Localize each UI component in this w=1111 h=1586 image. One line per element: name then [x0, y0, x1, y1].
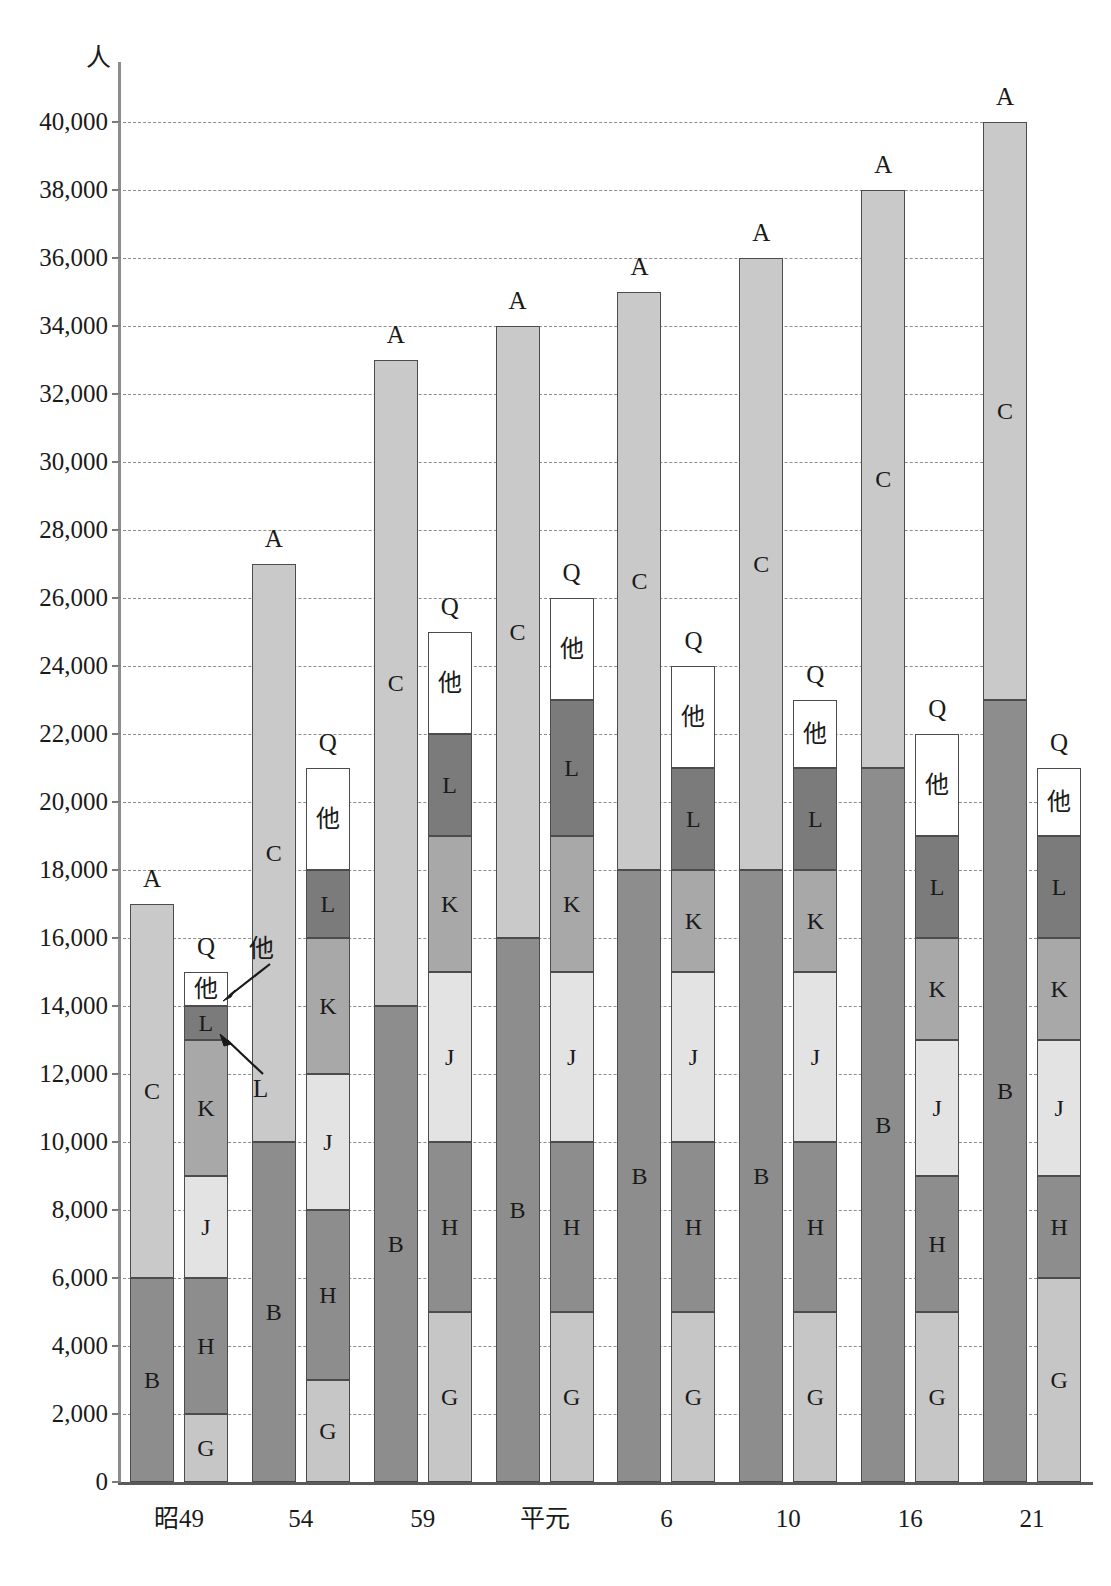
- segment-label: C: [388, 671, 404, 695]
- segment-label: G: [563, 1385, 580, 1409]
- segment-c: C: [739, 258, 783, 870]
- segment-label: G: [1050, 1368, 1067, 1392]
- segment-label: C: [266, 841, 282, 865]
- y-axis-tick-label: 38,000: [0, 177, 108, 202]
- segment-label: 他: [681, 705, 705, 729]
- bar-top-label-q: Q: [659, 628, 727, 653]
- segment-g: G: [550, 1312, 594, 1482]
- bar-a-10[interactable]: BC: [739, 258, 783, 1482]
- gridline: [118, 462, 983, 463]
- bar-q-59[interactable]: GHJKL他: [428, 632, 472, 1482]
- y-axis-tick-label: 0: [0, 1469, 108, 1494]
- segment-他: 他: [428, 632, 472, 734]
- segment-他: 他: [306, 768, 350, 870]
- segment-label: K: [1050, 977, 1067, 1001]
- bar-a-54[interactable]: BC: [252, 564, 296, 1482]
- bar-q-21[interactable]: GHJKL他: [1037, 768, 1081, 1482]
- gridline: [118, 394, 983, 395]
- segment-label: 他: [560, 637, 584, 661]
- segment-g: G: [671, 1312, 715, 1482]
- segment-c: C: [617, 292, 661, 870]
- segment-b: B: [739, 870, 783, 1482]
- segment-label: H: [1050, 1215, 1067, 1239]
- bar-top-label-a: A: [240, 526, 308, 551]
- segment-label: K: [807, 909, 824, 933]
- segment-l: L: [550, 700, 594, 836]
- segment-label: C: [631, 569, 647, 593]
- y-axis-tick-label: 28,000: [0, 517, 108, 542]
- segment-l: L: [793, 768, 837, 870]
- x-axis-label: 平元: [484, 1506, 606, 1531]
- segment-k: K: [671, 870, 715, 972]
- segment-label: L: [320, 892, 335, 916]
- bar-top-label-q: Q: [294, 730, 362, 755]
- segment-label: C: [510, 620, 526, 644]
- y-axis-tick-label: 4,000: [0, 1333, 108, 1358]
- bar-a-平元[interactable]: BC: [496, 326, 540, 1482]
- segment-l: L: [306, 870, 350, 938]
- segment-b: B: [617, 870, 661, 1482]
- bar-a-昭49[interactable]: BC: [130, 904, 174, 1482]
- y-axis-tick-label: 40,000: [0, 109, 108, 134]
- segment-k: K: [306, 938, 350, 1074]
- segment-h: H: [915, 1176, 959, 1312]
- y-axis-line: [118, 62, 121, 1484]
- bar-q-10[interactable]: GHJKL他: [793, 700, 837, 1482]
- segment-label: J: [689, 1045, 698, 1069]
- bar-top-label-q: Q: [538, 560, 606, 585]
- segment-label: G: [685, 1385, 702, 1409]
- segment-label: 他: [438, 671, 462, 695]
- segment-l: L: [915, 836, 959, 938]
- segment-label: H: [563, 1215, 580, 1239]
- segment-label: H: [807, 1215, 824, 1239]
- bar-q-6[interactable]: GHJKL他: [671, 666, 715, 1482]
- stacked-bar-chart: 人 02,0004,0006,0008,00010,00012,00014,00…: [0, 0, 1111, 1586]
- y-axis-tick-label: 32,000: [0, 381, 108, 406]
- y-axis-tick-label: 26,000: [0, 585, 108, 610]
- segment-h: H: [1037, 1176, 1081, 1278]
- segment-label: J: [201, 1215, 210, 1239]
- segment-b: B: [496, 938, 540, 1482]
- y-axis-tick-label: 2,000: [0, 1401, 108, 1426]
- segment-c: C: [861, 190, 905, 768]
- bar-a-59[interactable]: BC: [374, 360, 418, 1482]
- bar-q-平元[interactable]: GHJKL他: [550, 598, 594, 1482]
- segment-j: J: [550, 972, 594, 1142]
- segment-b: B: [130, 1278, 174, 1482]
- segment-g: G: [793, 1312, 837, 1482]
- segment-c: C: [983, 122, 1027, 700]
- bar-q-54[interactable]: GHJKL他: [306, 768, 350, 1482]
- segment-g: G: [915, 1312, 959, 1482]
- annotation-arrow-other-icon: [215, 960, 275, 1002]
- segment-b: B: [374, 1006, 418, 1482]
- segment-label: 他: [316, 807, 340, 831]
- segment-label: G: [441, 1385, 458, 1409]
- segment-label: B: [388, 1232, 404, 1256]
- bar-top-label-a: A: [849, 152, 917, 177]
- segment-label: L: [686, 807, 701, 831]
- y-axis-tick-label: 36,000: [0, 245, 108, 270]
- segment-label: L: [442, 773, 457, 797]
- segment-label: K: [929, 977, 946, 1001]
- gridline: [118, 190, 983, 191]
- segment-label: H: [929, 1232, 946, 1256]
- y-axis-tick-label: 24,000: [0, 653, 108, 678]
- bar-a-6[interactable]: BC: [617, 292, 661, 1482]
- segment-label: G: [807, 1385, 824, 1409]
- segment-c: C: [496, 326, 540, 938]
- segment-l: L: [1037, 836, 1081, 938]
- segment-label: B: [510, 1198, 526, 1222]
- segment-label: C: [875, 467, 891, 491]
- segment-c: C: [130, 904, 174, 1278]
- segment-h: H: [671, 1142, 715, 1312]
- y-axis-tick-label: 6,000: [0, 1265, 108, 1290]
- segment-label: L: [808, 807, 823, 831]
- bar-q-16[interactable]: GHJKL他: [915, 734, 959, 1482]
- bar-a-21[interactable]: BC: [983, 122, 1027, 1482]
- segment-label: H: [441, 1215, 458, 1239]
- segment-label: J: [323, 1130, 332, 1154]
- bar-a-16[interactable]: BC: [861, 190, 905, 1482]
- segment-g: G: [428, 1312, 472, 1482]
- bar-top-label-a: A: [605, 254, 673, 279]
- bar-top-label-a: A: [971, 84, 1039, 109]
